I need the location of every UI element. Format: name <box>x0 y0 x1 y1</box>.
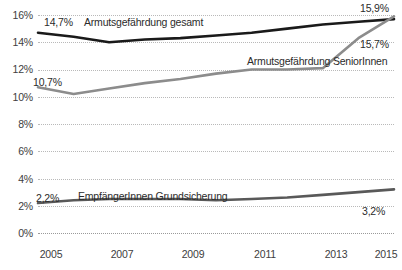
x-tick-2013: 2013 <box>325 248 348 260</box>
chart-container: 16% 14% 12% 10% 8% 6% 4% 2% 0% 14,7% Arm… <box>0 0 402 270</box>
x-tick-2015: 2015 <box>375 248 398 260</box>
y-tick-10: 10% <box>13 91 33 103</box>
y-tick-12: 12% <box>13 63 33 75</box>
x-axis-labels: 2005 2007 2009 2011 2013 2015 <box>0 238 402 270</box>
label-total-name: Armutsgefährdung gesamt <box>84 16 203 28</box>
label-basic-end: 3,2% <box>362 205 385 217</box>
label-seniors-start: 10,7% <box>33 76 62 88</box>
x-tick-2007: 2007 <box>111 248 134 260</box>
y-tick-16: 16% <box>13 9 33 21</box>
y-tick-14: 14% <box>13 36 33 48</box>
y-tick-4: 4% <box>18 173 33 185</box>
label-basic-name: EmpfängerInnen Grundsicherung <box>78 190 227 202</box>
axis-line-zero <box>38 233 394 234</box>
y-tick-8: 8% <box>18 118 33 130</box>
x-tick-2005: 2005 <box>40 248 63 260</box>
y-tick-6: 6% <box>18 145 33 157</box>
x-tick-2011: 2011 <box>254 248 276 260</box>
label-total-end: 15,7% <box>360 38 389 50</box>
label-seniors-name: Armutsgefährdung SeniorInnen <box>247 55 387 67</box>
y-tick-2: 2% <box>18 200 33 212</box>
y-axis-labels: 16% 14% 12% 10% 8% 6% 4% 2% 0% <box>0 0 36 270</box>
label-total-start: 14,7% <box>44 16 73 28</box>
label-basic-start: 2,2% <box>36 192 59 204</box>
label-seniors-end: 15,9% <box>360 2 389 14</box>
x-tick-2009: 2009 <box>182 248 205 260</box>
